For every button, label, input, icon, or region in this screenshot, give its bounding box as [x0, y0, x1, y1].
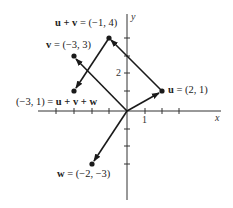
point-u-plus-v: [106, 35, 111, 40]
vector-w: [94, 111, 127, 161]
x-axis-label: x: [215, 113, 219, 123]
point-u: [159, 88, 164, 93]
point-w: [89, 161, 94, 166]
point-v: [71, 53, 76, 58]
label-u-plus-v: u + v = (−1, 4): [55, 18, 117, 29]
y-tick-label-2: 2: [116, 68, 121, 78]
label-u: u = (2, 1): [168, 85, 208, 96]
x-tick-label-1: 1: [142, 115, 147, 125]
label-u-plus-v-plus-w: (−3, 1) = u + v + w: [16, 97, 97, 108]
label-v: v = (−3, 3): [46, 40, 91, 51]
y-axis: [124, 14, 130, 200]
point-u-plus-v-plus-w: [71, 88, 76, 93]
vector-v-from-u: [111, 40, 162, 91]
y-axis-label: y: [131, 12, 135, 22]
label-w: w = (−2, −3): [57, 169, 110, 180]
vector-u: [127, 93, 159, 111]
